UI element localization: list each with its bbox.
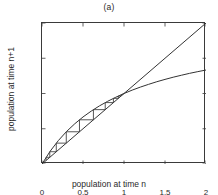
plot-area: 00.511.52 00.511.52 <box>41 22 205 163</box>
x-tick-label: 1 <box>104 188 144 195</box>
x-axis-label: population at time n <box>0 179 218 189</box>
x-tick-label: 0.5 <box>63 188 103 195</box>
x-tick-label: 0 <box>22 188 62 195</box>
map-curve <box>42 70 206 164</box>
x-tick-label: 2 <box>186 188 218 195</box>
plot-canvas <box>42 23 206 164</box>
figure-panel: (a) 00.511.52 00.511.52 population at ti… <box>0 0 218 195</box>
chart-title: (a) <box>0 2 218 12</box>
plot-svg <box>42 23 206 164</box>
y-axis-label: population at time n+1 <box>6 24 16 154</box>
x-tick-label: 1.5 <box>145 188 185 195</box>
